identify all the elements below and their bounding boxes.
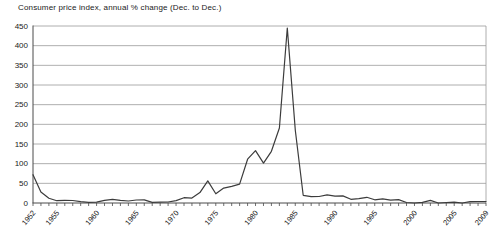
x-tick-label: 1970 [163,209,181,228]
y-tick-label: 0 [24,199,29,208]
x-tick-label: 2009 [473,209,491,228]
y-tick-label: 400 [15,41,29,50]
x-tick-label: 1952 [20,209,38,228]
cpi-chart-page: Consumer price index, annual % change (D… [0,0,499,230]
y-tick-label: 150 [15,140,29,149]
x-tick-label: 1995 [362,209,380,228]
y-tick-label: 50 [19,179,28,188]
x-tick-label: 2000 [401,209,419,228]
x-tick-label: 1960 [84,209,102,228]
y-tick-label: 350 [15,61,29,70]
x-tick-label: 1990 [322,209,340,228]
y-tick-label: 100 [15,159,29,168]
y-tick-label: 450 [15,22,29,31]
x-tick-label: 2005 [441,209,459,228]
y-tick-label: 250 [15,100,29,109]
x-tick-label: 1955 [44,209,62,228]
x-tick-label: 1965 [123,209,141,228]
x-tick-label: 1985 [282,209,300,228]
y-tick-label: 300 [15,81,29,90]
y-tick-label: 200 [15,120,29,129]
x-tick-label: 1975 [203,209,221,228]
x-tick-label: 1980 [242,209,260,228]
cpi-line-chart: 0501001502002503003504004501952195519601… [0,0,499,230]
data-line [33,28,486,203]
